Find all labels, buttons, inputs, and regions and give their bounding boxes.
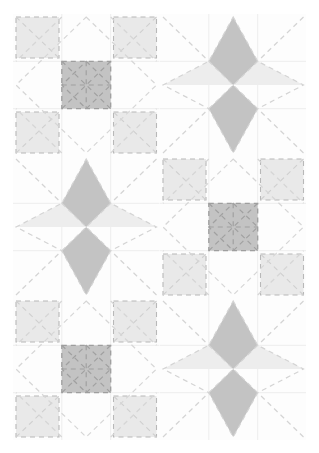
quilt-surface — [13, 14, 306, 440]
four-point-star-block[interactable] — [160, 14, 307, 156]
square-in-square-block[interactable] — [13, 298, 160, 440]
four-point-star-block[interactable] — [13, 156, 160, 298]
square-in-square-block[interactable] — [160, 156, 307, 298]
four-point-star-block[interactable] — [160, 298, 307, 440]
quilt-canvas — [0, 0, 319, 453]
square-in-square-block[interactable] — [13, 14, 160, 156]
